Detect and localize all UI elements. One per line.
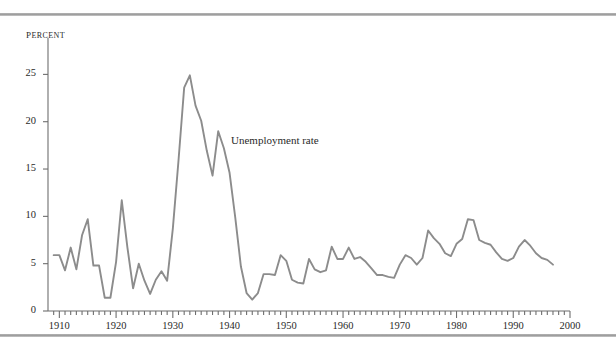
x-tick-label: 1950	[264, 320, 308, 331]
y-tick-label: 15	[10, 162, 36, 173]
unemployment-rate-figure: Percent Unemployment rate 05101520251910…	[0, 0, 616, 346]
axes-group	[48, 38, 570, 311]
chart-plot-area	[0, 0, 616, 346]
x-tick-label: 2000	[548, 320, 592, 331]
x-tick-label: 1910	[37, 320, 81, 331]
x-tick-label: 1960	[321, 320, 365, 331]
x-tick-label: 1990	[491, 320, 535, 331]
y-tick-label: 5	[10, 257, 36, 268]
y-tick-label: 20	[10, 115, 36, 126]
x-tick-label: 1940	[208, 320, 252, 331]
x-tick-label: 1920	[94, 320, 138, 331]
x-tick-label: 1970	[378, 320, 422, 331]
series-line-unemployment-rate	[54, 75, 553, 299]
y-tick-label: 0	[10, 304, 36, 315]
ticks-group	[43, 74, 570, 318]
y-tick-label: 25	[10, 67, 36, 78]
x-tick-label: 1980	[435, 320, 479, 331]
y-tick-label: 10	[10, 209, 36, 220]
x-tick-label: 1930	[151, 320, 195, 331]
